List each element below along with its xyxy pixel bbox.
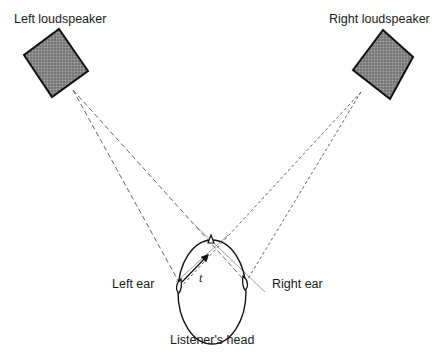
listener-head — [178, 240, 246, 344]
t-symbol: t — [199, 271, 202, 286]
nose-icon — [208, 235, 214, 243]
right-to-left-ear-path — [180, 92, 361, 288]
stereo-diagram — [0, 0, 434, 353]
right-ear-icon — [243, 276, 248, 290]
left-to-right-ear-path — [73, 90, 244, 280]
head-label: Listener's head — [170, 333, 254, 347]
right-to-right-ear-path — [246, 92, 361, 282]
right-ear-label: Right ear — [272, 277, 323, 291]
right-loudspeaker — [353, 30, 413, 99]
left-loudspeaker — [24, 29, 88, 97]
left-ear-label: Left ear — [112, 277, 154, 291]
left-to-left-ear-path — [73, 90, 180, 284]
left-loudspeaker-label: Left loudspeaker — [14, 12, 106, 26]
right-loudspeaker-label: Right loudspeaker — [329, 12, 430, 26]
